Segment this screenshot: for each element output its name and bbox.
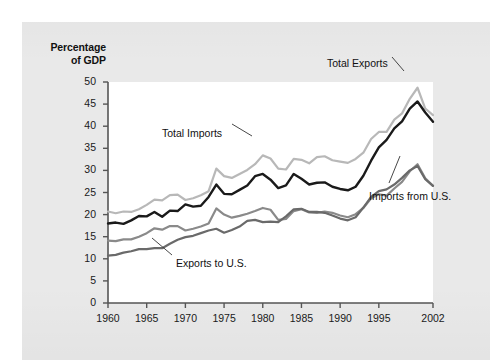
y-axis-tick-label: 45 [70, 97, 96, 109]
series-annotation-label: Total Imports [162, 127, 222, 139]
y-axis-tick-label: 35 [70, 141, 96, 153]
chart-figure: Percentage of GDP 0510152025303540455019… [0, 0, 490, 360]
y-axis-tick-label: 30 [70, 163, 96, 175]
x-axis-tick-label: 1995 [356, 312, 402, 324]
leader-total-exports [392, 57, 404, 71]
y-axis-tick-label: 15 [70, 230, 96, 242]
y-axis-tick-label: 0 [70, 296, 96, 308]
series-annotation-label: Imports from U.S. [369, 190, 451, 202]
series-annotation-label: Total Exports [327, 57, 388, 69]
y-axis-tick-label: 5 [70, 274, 96, 286]
y-axis-tick-label: 50 [70, 75, 96, 87]
series-annotation-label: Exports to U.S. [176, 257, 247, 269]
y-axis-tick-label: 20 [70, 208, 96, 220]
y-axis-tick-label: 25 [70, 186, 96, 198]
x-axis-tick-label: 2002 [410, 312, 456, 324]
y-axis-tick-label: 40 [70, 119, 96, 131]
y-axis-tick-label: 10 [70, 252, 96, 264]
